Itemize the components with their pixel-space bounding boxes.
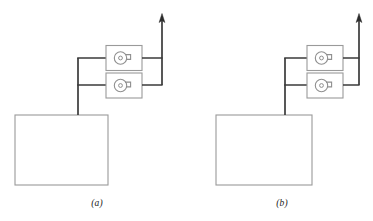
diagram-panel-b: (b) xyxy=(187,0,373,221)
pump-upper xyxy=(307,46,343,71)
pump-upper xyxy=(106,46,142,71)
panel-a-caption: (a) xyxy=(4,198,190,208)
panel-a-drawing xyxy=(0,0,186,221)
pump-upper-shaft-icon xyxy=(119,56,123,60)
pump-lower xyxy=(106,73,142,98)
diagram-panel-a: (a) xyxy=(0,0,186,221)
storage-tank xyxy=(216,115,312,185)
pump-lower-shaft-icon xyxy=(320,84,324,88)
panel-b-drawing xyxy=(187,0,373,221)
pump-upper-shaft-icon xyxy=(320,56,324,60)
pump-lower-shaft-icon xyxy=(119,84,123,88)
storage-tank xyxy=(15,115,108,185)
panel-b-caption: (b) xyxy=(189,198,373,208)
figure-root: (a) xyxy=(0,0,373,221)
pump-lower xyxy=(307,73,343,98)
